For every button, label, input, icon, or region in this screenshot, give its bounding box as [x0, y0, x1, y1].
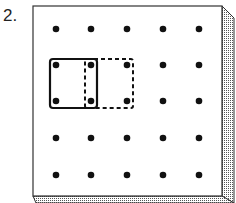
peg — [53, 62, 60, 69]
peg — [53, 26, 60, 33]
board-side-right — [222, 6, 234, 203]
peg — [196, 98, 203, 105]
peg — [88, 135, 95, 142]
peg — [124, 98, 131, 105]
peg — [53, 135, 60, 142]
board-side-bottom — [33, 196, 234, 203]
peg — [124, 135, 131, 142]
peg — [88, 26, 95, 33]
peg — [124, 62, 131, 69]
peg — [124, 172, 131, 179]
peg — [160, 26, 167, 33]
peg — [124, 26, 131, 33]
peg — [160, 98, 167, 105]
peg — [196, 26, 203, 33]
peg — [196, 62, 203, 69]
peg — [53, 98, 60, 105]
peg — [196, 172, 203, 179]
peg — [160, 135, 167, 142]
peg — [160, 62, 167, 69]
peg — [88, 62, 95, 69]
peg — [88, 98, 95, 105]
geoboard-diagram — [0, 0, 236, 203]
peg — [53, 172, 60, 179]
peg — [196, 135, 203, 142]
peg — [88, 172, 95, 179]
peg — [160, 172, 167, 179]
